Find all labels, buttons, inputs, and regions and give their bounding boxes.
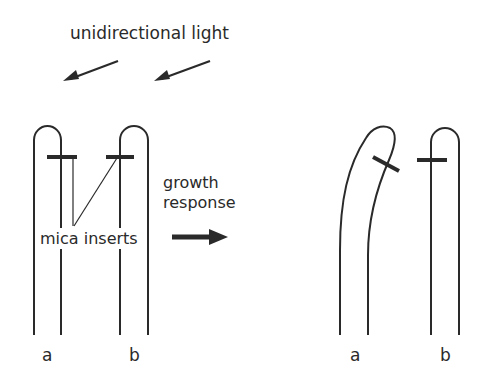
mica-leader-lines	[73, 157, 117, 226]
growth-label-line1: growth	[163, 173, 219, 192]
coleoptile-a-after	[340, 126, 395, 335]
label-b-before: b	[129, 345, 140, 365]
light-title: unidirectional light	[70, 23, 229, 43]
growth-label-line2: response	[163, 193, 236, 212]
phototropism-diagram: unidirectional light mica inserts growth…	[0, 0, 483, 387]
label-a-after: a	[350, 345, 360, 365]
light-arrow-right-icon	[154, 61, 210, 81]
label-b-after: b	[440, 345, 451, 365]
mica-inserts-label: mica inserts	[40, 229, 138, 248]
light-arrow-left-icon	[63, 61, 118, 81]
response-arrow-icon	[172, 229, 228, 245]
label-a-before: a	[42, 345, 52, 365]
